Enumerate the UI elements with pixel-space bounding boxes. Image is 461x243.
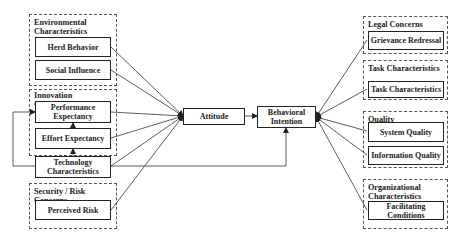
group-label-legal: Legal Concerns — [368, 20, 423, 29]
group-label-environmental: Environmental Characteristics — [34, 18, 104, 36]
construct-effort-expectancy: Effort Expectancy — [35, 128, 111, 149]
construct-task-characteristics: Task Characteristics — [368, 81, 444, 98]
construct-attitude: Attitude — [183, 108, 245, 125]
construct-performance-expectancy: Performance Expectancy — [35, 101, 111, 123]
construct-grievance-redressal: Grievance Redressal — [368, 31, 444, 50]
construct-facilitating-conditions: Facilitating Conditions — [368, 201, 444, 220]
construct-social-influence: Social Influence — [35, 60, 111, 80]
construct-information-quality: Information Quality — [368, 146, 444, 165]
construct-perceived-risk: Perceived Risk — [35, 200, 111, 220]
construct-technology-characteristics: Technology Characteristics — [35, 156, 111, 178]
group-label-task: Task Characteristics — [368, 64, 440, 73]
construct-herd-behavior: Herd Behavior — [35, 37, 111, 57]
group-label-organizational: Organizational Characteristics — [368, 183, 438, 201]
construct-system-quality: System Quality — [368, 122, 444, 142]
construct-behavioral-intention: Behavioral Intention — [257, 106, 316, 128]
